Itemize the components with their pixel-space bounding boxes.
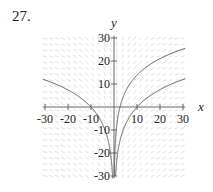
- slope-segment: [110, 60, 111, 64]
- slope-segment: [169, 127, 173, 129]
- slope-segment: [73, 55, 77, 57]
- slope-segment: [128, 43, 130, 47]
- slope-segment: [49, 56, 53, 58]
- slope-segment: [43, 92, 47, 93]
- slope-segment: [133, 85, 136, 88]
- slope-segment: [61, 43, 65, 45]
- slope-segment: [91, 85, 94, 88]
- slope-segment: [128, 37, 130, 41]
- slope-segment: [133, 150, 136, 153]
- slope-segment: [163, 43, 167, 45]
- slope-segment: [85, 43, 88, 46]
- y-tick-label: 30: [98, 31, 110, 45]
- slope-segment: [67, 85, 71, 87]
- slope-segment: [145, 109, 149, 112]
- slope-segment: [128, 156, 130, 160]
- slope-segment: [91, 55, 94, 58]
- slope-segment: [163, 145, 167, 147]
- slope-segment: [157, 73, 161, 75]
- slope-segment: [49, 163, 53, 165]
- slope-segment: [180, 175, 184, 176]
- slope-segment: [43, 175, 47, 176]
- slope-segment: [85, 175, 88, 178]
- slope-segment: [122, 54, 123, 58]
- slope-segment: [169, 139, 173, 141]
- slope-segment: [128, 66, 130, 70]
- slope-segment: [61, 97, 65, 99]
- slope-segment: [128, 138, 130, 142]
- slope-segment: [79, 55, 83, 58]
- slope-segment: [104, 114, 106, 118]
- slope-segment: [85, 55, 88, 58]
- slope-segment: [151, 169, 155, 171]
- slope-segment: [163, 79, 167, 81]
- slope-segment: [73, 43, 77, 45]
- slope-segment: [151, 73, 155, 75]
- slope-segment: [110, 132, 111, 136]
- slope-segment: [43, 139, 47, 140]
- slope-segment: [175, 175, 179, 177]
- slope-segment: [169, 50, 173, 52]
- slope-segment: [55, 97, 59, 99]
- slope-segment: [79, 91, 83, 94]
- slope-segment: [49, 91, 53, 93]
- slope-segment: [139, 61, 142, 64]
- slope-segment: [169, 67, 173, 69]
- slope-segment: [163, 157, 167, 159]
- slope-segment: [157, 175, 161, 177]
- slope-segment: [128, 132, 130, 136]
- slope-segment: [180, 74, 184, 75]
- slope-segment: [67, 97, 71, 99]
- slope-segment: [139, 91, 142, 94]
- slope-segment: [169, 163, 173, 165]
- slope-segment: [55, 151, 59, 153]
- slope-segment: [98, 49, 100, 53]
- x-axis-label: x: [197, 99, 204, 114]
- slope-segment: [79, 175, 83, 178]
- x-tick-label: 30: [177, 112, 189, 126]
- slope-segment: [43, 44, 47, 45]
- slope-segment: [122, 168, 123, 172]
- slope-segment: [139, 37, 142, 40]
- slope-segment: [67, 139, 71, 141]
- slope-segment: [91, 79, 94, 82]
- slope-segment: [55, 139, 59, 141]
- slope-segment: [128, 55, 130, 59]
- slope-segment: [73, 175, 77, 177]
- slope-segment: [85, 163, 88, 166]
- slope-segment: [122, 138, 123, 142]
- slope-segment: [73, 79, 77, 81]
- slope-segment: [175, 91, 179, 93]
- slope-segment: [128, 144, 130, 148]
- slope-segment: [110, 168, 111, 172]
- slope-segment: [67, 73, 71, 75]
- slope-segment: [180, 62, 184, 63]
- slope-segment: [163, 175, 167, 177]
- slope-segment: [73, 67, 77, 69]
- slope-segment: [110, 66, 111, 70]
- slope-segment: [133, 73, 136, 76]
- slope-segment: [55, 121, 59, 123]
- slope-segment: [169, 133, 173, 135]
- y-axis-label: y: [109, 15, 117, 30]
- slope-segment: [122, 90, 123, 94]
- slope-segment: [85, 85, 88, 88]
- slope-segment: [145, 157, 149, 160]
- slope-segment: [49, 86, 53, 88]
- slope-segment: [151, 85, 155, 87]
- slope-segment: [133, 91, 136, 94]
- slope-segment: [175, 68, 179, 70]
- slope-segment: [139, 85, 142, 88]
- slope-segment: [73, 127, 77, 129]
- slope-segment: [55, 68, 59, 70]
- slope-segment: [139, 73, 142, 76]
- slope-segment: [163, 163, 167, 165]
- slope-segment: [139, 79, 142, 82]
- x-tick-label: 10: [131, 112, 143, 126]
- slope-segment: [79, 73, 83, 76]
- slope-segment: [169, 44, 173, 46]
- y-tick-label: -30: [94, 169, 110, 183]
- slope-segment: [128, 150, 130, 154]
- slope-segment: [175, 145, 179, 147]
- slope-segment: [55, 133, 59, 135]
